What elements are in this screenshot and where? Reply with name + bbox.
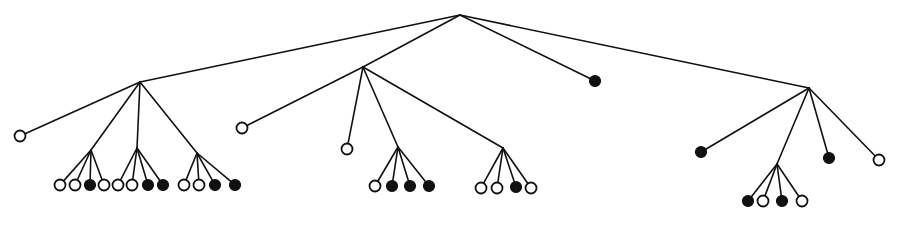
- tree-diagram-svg: [0, 0, 898, 235]
- tree-diagram: [0, 0, 898, 235]
- open-leaf-node: [113, 180, 124, 191]
- tree-edge: [765, 164, 777, 196]
- tree-edge: [363, 67, 398, 147]
- tree-edge: [137, 148, 146, 180]
- open-leaf-node: [492, 183, 503, 194]
- tree-edge: [460, 15, 809, 88]
- open-leaf-node: [127, 180, 138, 191]
- tree-edge: [197, 153, 212, 180]
- tree-edge: [137, 148, 160, 180]
- filled-leaf-node: [85, 180, 96, 191]
- filled-leaf-node: [777, 196, 788, 207]
- tree-edge: [91, 150, 102, 180]
- tree-edge: [398, 147, 426, 182]
- tree-edge: [503, 148, 514, 182]
- tree-edge: [140, 15, 460, 82]
- filled-leaf-node: [230, 180, 241, 191]
- open-leaf-node: [70, 180, 81, 191]
- filled-leaf-node: [143, 180, 154, 191]
- tree-edge: [140, 82, 197, 153]
- tree-edge: [90, 150, 91, 180]
- open-leaf-node: [237, 123, 248, 134]
- tree-edge: [460, 15, 590, 79]
- filled-leaf-node: [743, 196, 754, 207]
- open-leaf-node: [55, 180, 66, 191]
- filled-leaf-node: [590, 76, 601, 87]
- tree-edge: [137, 82, 140, 148]
- tree-edge: [77, 150, 91, 180]
- tree-edge: [777, 88, 809, 164]
- tree-edge: [363, 15, 460, 67]
- tree-edge: [348, 67, 363, 144]
- tree-edge: [398, 147, 408, 181]
- open-leaf-node: [99, 180, 110, 191]
- tree-edges: [25, 15, 875, 197]
- open-leaf-node: [370, 181, 381, 192]
- filled-leaf-node: [696, 147, 707, 158]
- tree-edge: [503, 148, 528, 183]
- filled-leaf-node: [511, 182, 522, 193]
- tree-edge: [186, 153, 197, 180]
- tree-leaves: [15, 76, 885, 207]
- open-leaf-node: [797, 196, 808, 207]
- tree-edge: [64, 150, 91, 181]
- open-leaf-node: [194, 180, 205, 191]
- filled-leaf-node: [405, 181, 416, 192]
- filled-leaf-node: [824, 153, 835, 164]
- filled-leaf-node: [158, 180, 169, 191]
- tree-edge: [247, 67, 363, 126]
- filled-leaf-node: [387, 181, 398, 192]
- open-leaf-node: [15, 131, 26, 142]
- tree-edge: [751, 164, 777, 197]
- open-leaf-node: [526, 183, 537, 194]
- open-leaf-node: [758, 196, 769, 207]
- filled-leaf-node: [210, 180, 221, 191]
- open-leaf-node: [342, 144, 353, 155]
- tree-edge: [25, 82, 140, 134]
- tree-edge: [197, 153, 231, 181]
- open-leaf-node: [179, 180, 190, 191]
- open-leaf-node: [476, 183, 487, 194]
- open-leaf-node: [874, 155, 885, 166]
- tree-edge: [363, 67, 503, 148]
- tree-edge: [706, 88, 809, 149]
- filled-leaf-node: [424, 181, 435, 192]
